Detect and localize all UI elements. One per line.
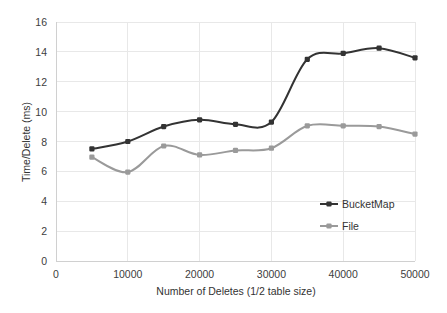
data-point-marker — [305, 57, 310, 62]
y-tick-label: 4 — [41, 195, 47, 207]
x-tick-label: 40000 — [329, 268, 358, 280]
x-axis-tick-labels: 01000020000300004000050000 — [53, 268, 430, 280]
series-bucketmap — [89, 46, 417, 152]
y-tick-label: 16 — [35, 16, 47, 28]
y-axis-tick-labels: 0246810121416 — [35, 16, 47, 267]
data-point-marker — [161, 143, 166, 148]
data-point-marker — [341, 51, 346, 56]
data-point-marker — [412, 131, 417, 136]
y-axis-title: Time/Delete (ms) — [20, 102, 32, 182]
series-line — [92, 48, 415, 149]
x-tick-label: 0 — [53, 268, 59, 280]
y-tick-label: 6 — [41, 165, 47, 177]
legend-item-bucketmap[interactable]: BucketMap — [320, 198, 395, 210]
data-series-layer — [89, 46, 417, 175]
data-point-marker — [341, 123, 346, 128]
x-tick-label: 10000 — [113, 268, 142, 280]
y-tick-label: 14 — [35, 46, 47, 58]
data-point-marker — [197, 117, 202, 122]
y-tick-label: 12 — [35, 76, 47, 88]
x-tick-label: 50000 — [400, 268, 429, 280]
data-point-marker — [89, 146, 94, 151]
legend-label: BucketMap — [342, 198, 395, 210]
legend-label: File — [342, 220, 359, 232]
series-line — [92, 124, 415, 172]
data-point-marker — [125, 139, 130, 144]
x-tick-label: 20000 — [185, 268, 214, 280]
data-point-marker — [305, 123, 310, 128]
data-point-marker — [269, 119, 274, 124]
data-point-marker — [233, 148, 238, 153]
data-point-marker — [377, 124, 382, 129]
x-tick-label: 30000 — [257, 268, 286, 280]
legend-item-file[interactable]: File — [320, 220, 359, 232]
y-tick-label: 0 — [41, 255, 47, 267]
y-tick-label: 10 — [35, 106, 47, 118]
gridlines — [56, 22, 415, 261]
y-tick-label: 2 — [41, 225, 47, 237]
data-point-marker — [233, 122, 238, 127]
x-axis-title: Number of Deletes (1/2 table size) — [156, 285, 315, 297]
data-point-marker — [269, 146, 274, 151]
line-chart: 0246810121416 01000020000300004000050000… — [0, 0, 447, 313]
data-point-marker — [412, 55, 417, 60]
data-point-marker — [89, 155, 94, 160]
data-point-marker — [125, 170, 130, 175]
data-point-marker — [161, 124, 166, 129]
series-file — [89, 123, 417, 175]
y-tick-label: 8 — [41, 136, 47, 148]
chart-container: 0246810121416 01000020000300004000050000… — [0, 0, 447, 313]
legend-marker-swatch — [326, 201, 331, 206]
data-point-marker — [377, 46, 382, 51]
data-point-marker — [197, 152, 202, 157]
legend-marker-swatch — [326, 223, 331, 228]
chart-legend: BucketMapFile — [320, 198, 395, 232]
